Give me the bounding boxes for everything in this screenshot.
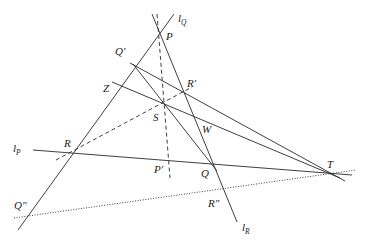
label-q-prime: Q′ — [115, 45, 126, 57]
line-r-r-prime-dashed — [56, 87, 192, 160]
label-z: Z — [103, 82, 110, 94]
line-l-q — [18, 14, 174, 230]
label-l-r: lR — [242, 221, 250, 236]
label-r: R — [63, 137, 71, 149]
label-t: T — [327, 158, 334, 170]
label-l-p: lP — [13, 142, 21, 157]
label-q: Q — [201, 167, 209, 179]
label-s: S — [153, 111, 159, 123]
label-q-double-prime: Q″ — [14, 199, 27, 211]
line-z-t — [112, 82, 340, 178]
line-q-double-prime-t-dotted — [14, 170, 356, 218]
diagram-svg: P lQ Q′ Z R′ S W lP R P′ Q T R″ Q″ lR — [0, 0, 366, 247]
label-p: P — [165, 30, 173, 42]
line-q-prime-q — [133, 64, 217, 171]
label-w: W — [202, 123, 212, 135]
label-l-q: lQ — [178, 12, 187, 27]
geometry-diagram: P lQ Q′ Z R′ S W lP R P′ Q T R″ Q″ lR — [0, 0, 366, 247]
label-p-prime: P′ — [153, 163, 164, 175]
label-r-double-prime: R″ — [207, 197, 220, 209]
label-r-prime: R′ — [186, 77, 197, 89]
line-l-r — [152, 14, 237, 222]
